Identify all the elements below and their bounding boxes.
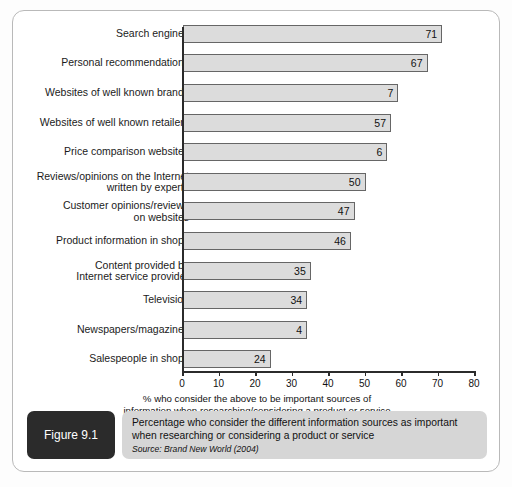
- bar-track: 4: [183, 321, 475, 339]
- bar-track: 6: [183, 143, 475, 161]
- bar-track: 57: [183, 114, 475, 132]
- x-tick-mark: [328, 371, 330, 376]
- x-tick-mark: [438, 371, 440, 376]
- bar: 46: [183, 232, 351, 250]
- bar-track: 71: [183, 25, 475, 43]
- bar-row: Websites of well known retailers57: [13, 108, 501, 138]
- category-label-line: Reviews/opinions on the Internet: [14, 170, 189, 182]
- x-tick-label: 70: [432, 378, 443, 389]
- category-label-line: Personal recommendations: [14, 58, 189, 70]
- bar: 4: [183, 321, 307, 339]
- figure-number: Figure 9.1: [27, 411, 115, 459]
- category-label: Content provided byInternet service prov…: [14, 259, 189, 282]
- category-label: Reviews/opinions on the Internetwritten …: [14, 170, 189, 193]
- category-label: Television: [14, 294, 189, 306]
- bar-value-label: 50: [349, 176, 361, 188]
- figure-caption-line2: when researching or considering a produc…: [132, 430, 477, 443]
- bar-value-label: 34: [290, 294, 302, 306]
- x-tick-label: 40: [322, 378, 333, 389]
- category-label: Newspapers/magazines: [14, 324, 189, 336]
- category-label-line: Product information in shops: [14, 235, 189, 247]
- bar-row: Reviews/opinions on the Internetwritten …: [13, 167, 501, 197]
- category-label-line: Television: [14, 294, 189, 306]
- bar-track: 7: [183, 84, 475, 102]
- bar-row: Websites of well known brands7: [13, 78, 501, 108]
- bar-track: 67: [183, 54, 475, 72]
- category-label-line: Websites of well known brands: [14, 87, 189, 99]
- x-tick-label: 60: [395, 378, 406, 389]
- figure-caption-line1: Percentage who consider the different in…: [132, 417, 477, 430]
- bar-row: Search engines71: [13, 19, 501, 49]
- category-label-line: Customer opinions/reviews: [14, 200, 189, 212]
- bar-track: 34: [183, 291, 475, 309]
- x-tick-mark: [255, 371, 257, 376]
- x-tick-mark: [292, 371, 294, 376]
- x-tick-mark: [365, 371, 367, 376]
- bar: 57: [183, 114, 391, 132]
- bar-track: 24: [183, 350, 475, 368]
- bar: 71: [183, 25, 442, 43]
- bar: 50: [183, 173, 366, 191]
- category-label: Personal recommendations: [14, 58, 189, 70]
- category-label-line: on websites: [14, 211, 189, 223]
- category-label-line: Salespeople in shops: [14, 354, 189, 366]
- bar: 67: [183, 54, 428, 72]
- bar-row: Salespeople in shops24: [13, 345, 501, 375]
- category-label-line: Newspapers/magazines: [14, 324, 189, 336]
- bar-track: 47: [183, 202, 475, 220]
- x-axis-caption-line1: % who consider the above to be important…: [13, 393, 501, 405]
- bar-track: 35: [183, 262, 475, 280]
- x-tick-label: 20: [249, 378, 260, 389]
- bar-value-label: 71: [425, 28, 437, 40]
- bar-row: Customer opinions/reviewson websites47: [13, 197, 501, 227]
- bar: 34: [183, 291, 307, 309]
- category-label-line: written by experts: [14, 182, 189, 194]
- bar: 7: [183, 84, 398, 102]
- bar: 47: [183, 202, 355, 220]
- category-label-line: Price comparison websites: [14, 146, 189, 158]
- category-label: Product information in shops: [14, 235, 189, 247]
- figure-caption-box: Figure 9.1 Percentage who consider the d…: [27, 411, 487, 459]
- bar-track: 46: [183, 232, 475, 250]
- bar-track: 50: [183, 173, 475, 191]
- figure-page: Search engines71Personal recommendations…: [0, 0, 512, 487]
- bar-value-label: 47: [338, 205, 350, 217]
- bar-row: Newspapers/magazines4: [13, 315, 501, 345]
- x-tick-label: 50: [359, 378, 370, 389]
- x-tick-label: 0: [179, 378, 185, 389]
- bar-value-label: 46: [334, 235, 346, 247]
- bar-value-label: 35: [294, 265, 306, 277]
- bar-row: Television34: [13, 285, 501, 315]
- x-tick-mark: [474, 371, 476, 376]
- category-label-line: Content provided by: [14, 259, 189, 271]
- y-axis-line: [182, 27, 184, 371]
- category-label: Websites of well known brands: [14, 87, 189, 99]
- bar-value-label: 7: [388, 87, 394, 99]
- bar-value-label: 24: [254, 353, 266, 365]
- x-tick-mark: [219, 371, 221, 376]
- x-tick-mark: [182, 371, 184, 376]
- category-label: Websites of well known retailers: [14, 117, 189, 129]
- category-label-line: Websites of well known retailers: [14, 117, 189, 129]
- bar-row: Content provided byInternet service prov…: [13, 256, 501, 286]
- bar-value-label: 4: [296, 324, 302, 336]
- bar-value-label: 57: [374, 117, 386, 129]
- bar-value-label: 6: [377, 146, 383, 158]
- category-label: Salespeople in shops: [14, 354, 189, 366]
- bar-row: Personal recommendations67: [13, 49, 501, 79]
- bar: 6: [183, 143, 387, 161]
- x-tick-label: 80: [468, 378, 479, 389]
- category-label: Customer opinions/reviewson websites: [14, 200, 189, 223]
- bar: 35: [183, 262, 311, 280]
- category-label: Search engines: [14, 28, 189, 40]
- x-tick-mark: [401, 371, 403, 376]
- x-tick-label: 10: [213, 378, 224, 389]
- figure-source: Source: Brand New World (2004): [132, 444, 477, 454]
- category-label-line: Search engines: [14, 28, 189, 40]
- bar-value-label: 67: [411, 57, 423, 69]
- bar-rows: Search engines71Personal recommendations…: [13, 19, 501, 374]
- bar: 24: [183, 350, 271, 368]
- category-label-line: Internet service provider: [14, 271, 189, 283]
- bar-chart: Search engines71Personal recommendations…: [13, 19, 501, 379]
- bar-row: Price comparison websites6: [13, 137, 501, 167]
